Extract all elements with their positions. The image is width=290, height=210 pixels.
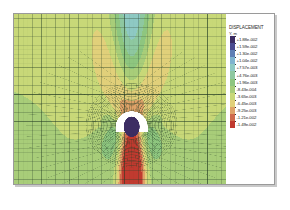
legend-color-swatch xyxy=(230,36,235,43)
legend-color-swatch xyxy=(230,114,235,121)
legend-entry: +1.96e-003 xyxy=(230,79,272,86)
finite-element-mesh xyxy=(14,14,226,184)
plot-frame: DISPLACEMENT Y, m +1.88e-002+1.59e-002+1… xyxy=(13,13,275,185)
legend-color-swatch xyxy=(230,71,235,78)
legend-entry-label: +1.04e-002 xyxy=(237,58,258,63)
legend-color-swatch xyxy=(230,107,235,114)
legend-color-swatch xyxy=(230,64,235,71)
legend-color-swatch xyxy=(230,100,235,107)
legend-entry: -6.45e-003 xyxy=(230,100,272,107)
legend-entry: +7.57e-003 xyxy=(230,64,272,71)
legend-entry-label: +4.76e-003 xyxy=(237,73,258,78)
legend-entry-label: -1.21e-002 xyxy=(237,115,257,120)
legend-color-swatch xyxy=(230,93,235,100)
legend-entry: -1.49e-002 xyxy=(230,121,272,128)
legend-entry-label: +1.96e-003 xyxy=(237,80,258,85)
legend-color-swatch xyxy=(230,86,235,93)
legend-entry: +1.88e-002 xyxy=(230,36,272,43)
legend-entry-label: -1.49e-002 xyxy=(237,122,257,127)
legend-entry-label: -3.65e-003 xyxy=(237,94,257,99)
legend-entry-label: +1.88e-002 xyxy=(237,37,258,42)
legend-entry: +4.76e-003 xyxy=(230,71,272,78)
legend-entry: +1.59e-002 xyxy=(230,43,272,50)
legend-color-swatch xyxy=(230,50,235,57)
legend-color-swatch xyxy=(230,57,235,64)
legend-color-swatch xyxy=(230,79,235,86)
legend-entry: -9.25e-003 xyxy=(230,107,272,114)
legend-entry: +1.30e-002 xyxy=(230,50,272,57)
legend-entry-label: +1.59e-002 xyxy=(237,44,258,49)
legend-panel: DISPLACEMENT Y, m +1.88e-002+1.59e-002+1… xyxy=(228,14,274,184)
legend-entry-label: +7.57e-003 xyxy=(237,65,258,70)
legend-color-swatch xyxy=(230,43,235,50)
legend-title: DISPLACEMENT xyxy=(229,25,264,30)
legend-entry-label: -8.43e-004 xyxy=(237,87,257,92)
legend-subtitle: Y, m xyxy=(229,31,237,36)
contour-mesh-area xyxy=(14,14,226,184)
legend-entry-label: -6.45e-003 xyxy=(237,101,257,106)
legend-entry: +1.04e-002 xyxy=(230,57,272,64)
legend-entry-label: +1.30e-002 xyxy=(237,51,258,56)
legend-entries: +1.88e-002+1.59e-002+1.30e-002+1.04e-002… xyxy=(230,36,272,128)
legend-color-swatch xyxy=(230,121,235,128)
legend-entry: -8.43e-004 xyxy=(230,86,272,93)
legend-entry-label: -9.25e-003 xyxy=(237,108,257,113)
legend-entry: -3.65e-003 xyxy=(230,93,272,100)
figure-root: DISPLACEMENT Y, m +1.88e-002+1.59e-002+1… xyxy=(0,0,290,210)
legend-entry: -1.21e-002 xyxy=(230,114,272,121)
